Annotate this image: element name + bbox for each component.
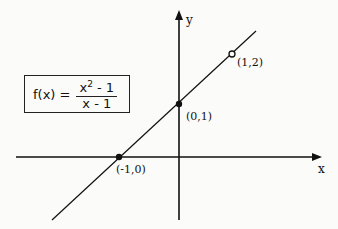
- formula-denominator: x - 1: [82, 97, 111, 111]
- point-open-hole: [229, 51, 235, 57]
- graph-canvas: [0, 0, 338, 229]
- x-axis-label: x: [318, 163, 325, 175]
- numerator-base: x: [79, 81, 87, 96]
- y-axis-arrow-icon: [175, 10, 183, 20]
- formula-fraction: x2 - 1 x - 1: [76, 77, 117, 110]
- formula-lhs: f(x) =: [33, 87, 70, 102]
- point-x-intercept: [116, 154, 122, 160]
- point-label-neg1-0: (-1,0): [116, 164, 146, 175]
- y-axis-label: y: [186, 14, 193, 26]
- point-y-intercept: [176, 101, 182, 107]
- point-label-1-2: (1,2): [237, 57, 263, 68]
- formula-numerator: x2 - 1: [76, 77, 117, 96]
- point-label-0-1: (0,1): [186, 111, 212, 122]
- numerator-rest: - 1: [93, 81, 114, 96]
- x-axis-arrow-icon: [312, 153, 322, 161]
- function-line: [52, 31, 256, 220]
- formula-box: f(x) = x2 - 1 x - 1: [24, 75, 130, 113]
